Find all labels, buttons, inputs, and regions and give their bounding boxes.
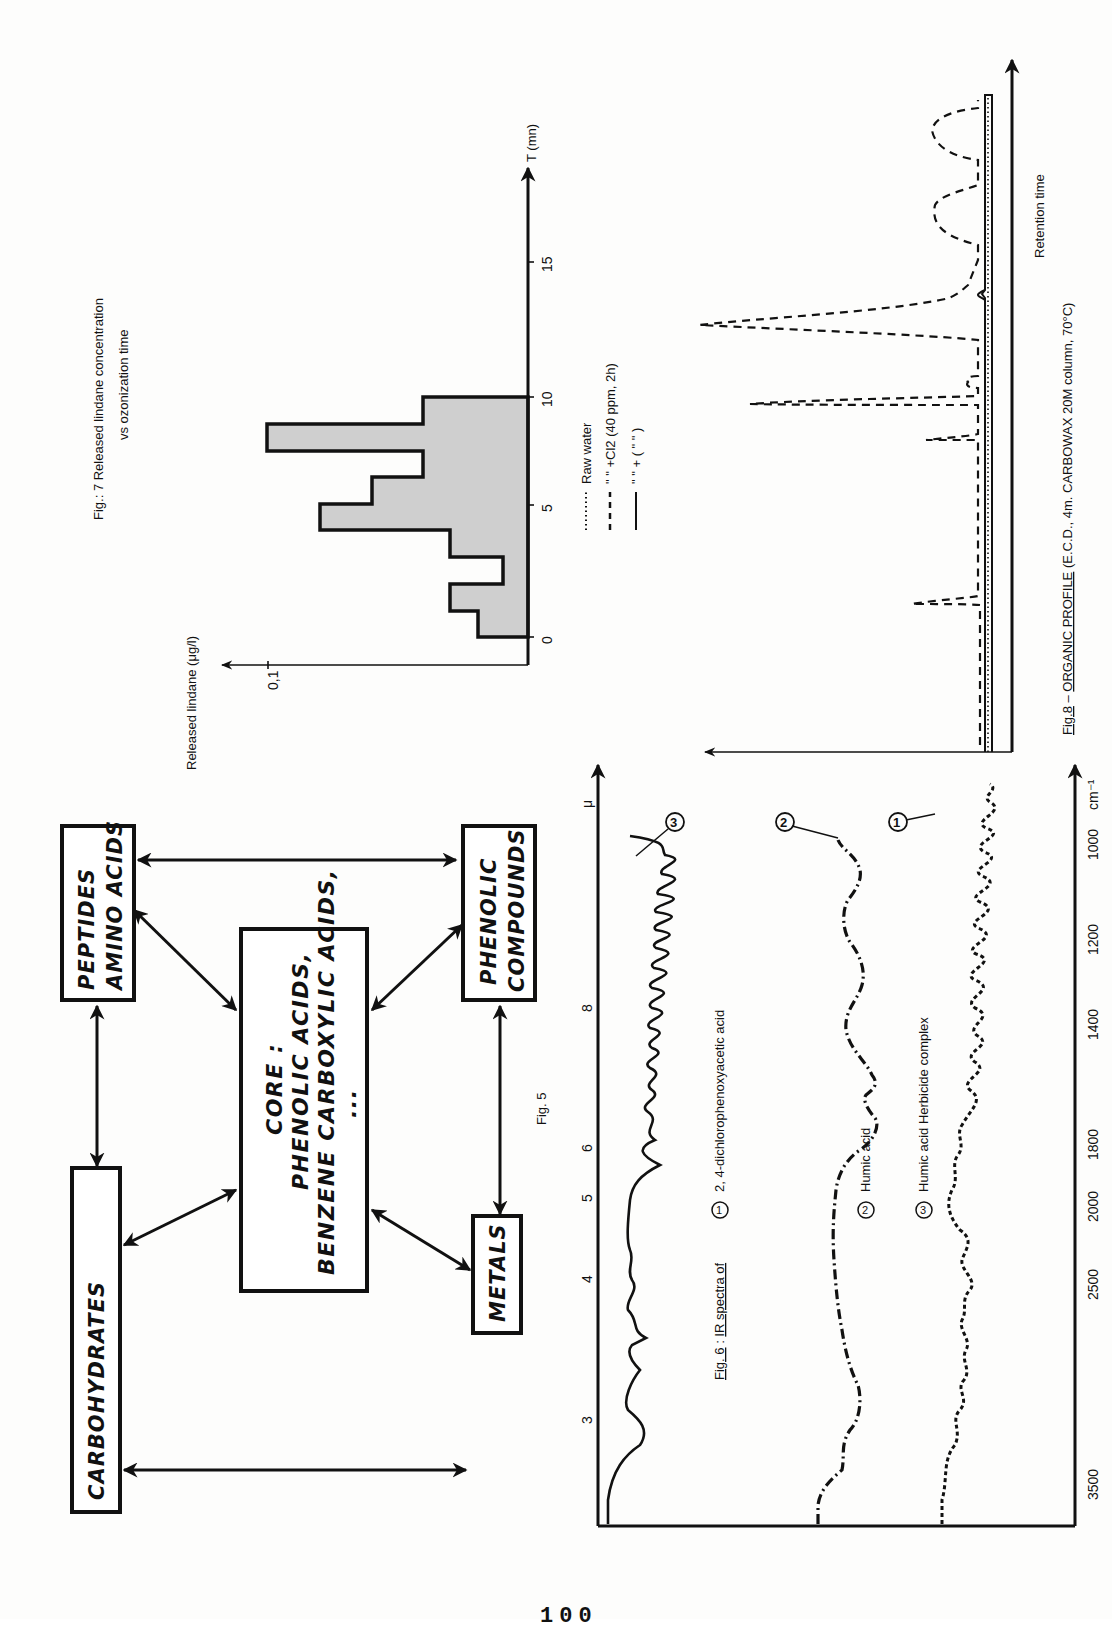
fig7-title: Fig.: 7 Released lindane concentration — [91, 298, 106, 520]
micron-tick-8: 8 — [579, 1004, 595, 1012]
page-number: 100 — [540, 1604, 598, 1626]
box-phenolic-line1: PHENOLIC — [477, 858, 501, 985]
box-peptides-line2: AMINO ACIDS — [103, 820, 127, 992]
micron-tick-6: 6 — [579, 1144, 595, 1152]
fig5-caption: Fig. 5 — [534, 1092, 549, 1125]
fig8-chromatogram — [700, 60, 1012, 752]
box-core-line4: ... — [336, 1088, 361, 1118]
box-phenolic-line2: COMPOUNDS — [505, 828, 529, 992]
box-core-line1: CORE : — [262, 1043, 287, 1135]
svg-text:Fig.8 – ORGANIC: Fig.8 – ORGANIC PROFILE (E.C.D., 4m. CAR… — [1060, 303, 1075, 735]
micron-tick-3: 3 — [579, 1416, 595, 1424]
fig7-bar-chart: Fig.: 7 Released lindane concentration v… — [91, 124, 555, 770]
wn-tick-1800: 1800 — [1085, 1129, 1101, 1160]
fig7-subtitle: vs ozonization time — [116, 329, 131, 440]
wn-tick-2500: 2500 — [1085, 1269, 1101, 1300]
wn-tick-1000: 1000 — [1085, 829, 1101, 860]
fig6-legend-2: Humic acid — [858, 1128, 873, 1192]
fig8-dashed-trace — [700, 100, 980, 745]
fig8-solid-trace — [982, 95, 992, 752]
callout-3-num: 3 — [670, 815, 677, 830]
ir-curve-3 — [608, 836, 675, 1524]
wn-tick-1200: 1200 — [1085, 924, 1101, 955]
wn-tick-1400: 1400 — [1085, 1009, 1101, 1040]
svg-text:1: 1 — [716, 1204, 722, 1216]
fig7-xtick-10: 10 — [539, 391, 555, 407]
legend-third: " " + ( " " ) — [629, 428, 644, 484]
fig8-caption: Fig.8 – ORGANIC PROFILE (E.C.D., 4m. CAR… — [1060, 303, 1075, 735]
micron-unit: μ — [579, 800, 595, 808]
fig7-xtick-15: 15 — [539, 256, 555, 272]
box-peptides-line1: PEPTIDES — [75, 868, 99, 990]
fig7-xtick-5: 5 — [539, 504, 555, 512]
callout-1-num: 1 — [893, 815, 900, 830]
wn-tick-3500: 3500 — [1085, 1469, 1101, 1500]
svg-text:2: 2 — [862, 1204, 868, 1216]
fig7-bars — [267, 397, 528, 637]
box-core-line3: BENZENE CARBOXYLIC ACIDS, — [314, 868, 339, 1275]
fig7-ytick-label: 0,1 — [265, 670, 281, 690]
fig8-legend: Raw water " " +Cl2 (40 ppm, 2h) " " + ( … — [579, 363, 644, 530]
micron-tick-5: 5 — [579, 1194, 595, 1202]
fig5-diagram: PEPTIDES AMINO ACIDS PHENOLIC COMPOUNDS … — [62, 820, 535, 1512]
fig6-legend-3: Humic acid Herbicide complex — [916, 1017, 931, 1192]
fig7-xlabel: T (mn) — [524, 124, 539, 162]
legend-cl2: " " +Cl2 (40 ppm, 2h) — [603, 363, 618, 484]
wn-tick-2000: 2000 — [1085, 1191, 1101, 1222]
fig8-caption-detail: (E.C.D., 4m. CARBOWAX 20M column, 70°C) — [1060, 303, 1075, 569]
micron-tick-4: 4 — [579, 1275, 595, 1283]
fig8-caption-title: ORGANIC PROFILE — [1060, 571, 1075, 691]
fig7-xtick-0: 0 — [539, 636, 555, 644]
box-core-line2: PHENOLIC ACIDS, — [288, 952, 313, 1190]
wn-unit: cm⁻¹ — [1085, 779, 1101, 810]
box-metals-label: METALS — [486, 1223, 510, 1322]
fig7-ylabel: Released lindane (μg/l) — [184, 636, 199, 770]
legend-raw-water: Raw water — [579, 422, 594, 484]
callout-2-num: 2 — [780, 815, 787, 830]
fig6-legend-1: 2, 4-dichlorophenoxyacetic acid — [712, 1010, 727, 1192]
fig6-caption: Fig. 6 : IR spectra of — [712, 1263, 727, 1380]
box-carbohydrates-label: CARBOHYDRATES — [85, 1281, 109, 1500]
ir-curve-1 — [942, 784, 995, 1524]
fig6-ir-spectra: 3 4 5 6 8 μ 3500 2500 2000 1800 1400 120… — [579, 765, 1101, 1526]
fig8-caption-prefix: Fig.8 — [1060, 706, 1075, 735]
svg-text:3: 3 — [920, 1204, 926, 1216]
fig8-xlabel: Retention time — [1032, 174, 1047, 258]
